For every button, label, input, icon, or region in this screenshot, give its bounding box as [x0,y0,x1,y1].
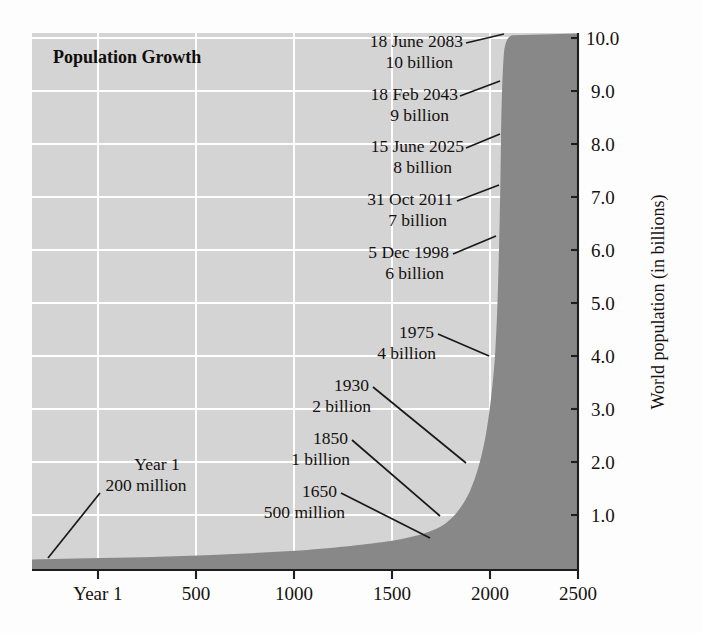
y-tick-label: 4.0 [591,346,615,367]
x-tick-marks [98,570,578,579]
annotation-date: 5 Dec 1998 [368,242,449,262]
y-tick-label: 5.0 [591,293,615,314]
annotation-amount: 1 billion [291,449,350,469]
y-tick-label: 6.0 [591,240,615,261]
x-tick-label: Year 1 [73,583,122,604]
y-tick-label: 3.0 [591,399,615,420]
x-tick-labels: Year 1 500 1000 1500 2000 2500 [73,583,597,604]
annotation-date: Year 1 [134,454,179,474]
annotation-amount: 9 billion [390,105,449,125]
annotation-amount: 7 billion [388,210,447,230]
y-tick-labels: 10.0 9.0 8.0 7.0 6.0 5.0 4.0 3.0 2.0 1.0 [586,28,619,526]
population-growth-chart: Population Growth 18 June 2083 10 billio… [0,0,703,633]
annotation-date: 31 Oct 2011 [367,189,453,209]
x-tick-label: 500 [182,583,211,604]
annotation-amount: 10 billion [385,52,453,72]
annotation-date: 1650 [302,481,337,501]
x-tick-label: 1000 [275,583,313,604]
y-tick-label: 8.0 [591,134,615,155]
y-tick-label: 7.0 [591,187,615,208]
x-tick-label: 1500 [373,583,411,604]
y-tick-label: 9.0 [591,81,615,102]
annotation-amount: 2 billion [312,396,371,416]
y-axis-title: World population (in billions) [648,194,669,409]
annotation-amount: 6 billion [385,263,444,283]
chart-container: Population Growth 18 June 2083 10 billio… [0,0,703,633]
annotation-date: 18 Feb 2043 [371,84,459,104]
annotation-amount: 200 million [105,475,186,495]
annotation-date: 15 June 2025 [371,136,465,156]
annotation-amount: 500 million [264,502,345,522]
x-tick-label: 2000 [471,583,509,604]
annotation-date: 1850 [313,428,348,448]
y-tick-label: 1.0 [591,505,615,526]
annotation-amount: 4 billion [377,343,436,363]
annotation-amount: 8 billion [393,157,452,177]
x-tick-label: 2500 [559,583,597,604]
chart-title: Population Growth [53,47,201,67]
annotation-date: 1975 [399,322,434,342]
annotation-date: 1930 [334,375,369,395]
y-tick-label: 10.0 [586,28,619,49]
y-tick-label: 2.0 [591,452,615,473]
annotation-date: 18 June 2083 [370,31,464,51]
